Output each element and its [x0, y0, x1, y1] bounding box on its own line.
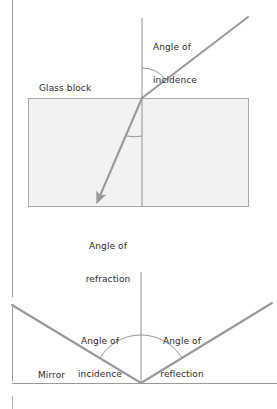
angle-of-incidence-line2: incidence [153, 75, 197, 86]
mirror-label: Mirror [38, 370, 65, 381]
angle-of-incidence-label-refraction: Angle of incidence [153, 20, 197, 108]
glass-block-rect [29, 99, 249, 207]
angle-of-reflection-label: Angle of reflection [148, 314, 216, 402]
angle-of-incidence-reflection-line1: Angle of [66, 336, 134, 347]
angle-of-refraction-line1: Angle of [68, 241, 148, 252]
physics-ray-diagram [0, 0, 277, 409]
figure-canvas: Angle of incidence Glass block Angle of … [0, 0, 277, 409]
angle-of-incidence-line1: Angle of [153, 42, 197, 53]
angle-of-incidence-label-reflection: Angle of incidence [66, 314, 134, 402]
glass-block-label: Glass block [39, 83, 91, 94]
angle-of-incidence-reflection-line2: incidence [66, 369, 134, 380]
angle-of-reflection-line2: reflection [148, 369, 216, 380]
angle-of-reflection-line1: Angle of [148, 336, 216, 347]
angle-of-refraction-label: Angle of refraction [68, 219, 148, 307]
angle-of-refraction-line2: refraction [68, 274, 148, 285]
